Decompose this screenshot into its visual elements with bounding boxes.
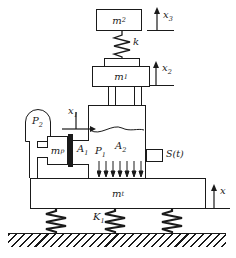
- fluid-surface-wave-icon: [90, 123, 144, 137]
- valve-port-box: [146, 149, 163, 162]
- top-mass-label: m2: [97, 10, 141, 30]
- foundation-spring-left-icon: [42, 209, 70, 234]
- base-mass-label: mt: [31, 179, 205, 208]
- foundation-spring-mid-icon: [101, 209, 129, 234]
- mid-mass-block: m1: [92, 66, 150, 87]
- piston-face-bar: [68, 134, 73, 167]
- plunger-rod-right: [134, 87, 142, 107]
- x-coord-label: x: [220, 186, 226, 196]
- x2-up-arrow-icon: [151, 61, 161, 85]
- accumulator-pressure-label: P2: [32, 116, 43, 128]
- foundation-stiffness-label: K1: [93, 212, 105, 224]
- x1-right-arrow-icon: [62, 112, 96, 135]
- piston-mass-block: mp: [47, 136, 68, 165]
- x-up-arrow-icon: [209, 184, 219, 208]
- base-mass-block: mt: [30, 178, 206, 209]
- x-reference-line: [204, 208, 230, 209]
- x3-up-arrow-icon: [152, 7, 162, 31]
- upper-spring-label: k: [133, 37, 139, 47]
- chamber-area-label: A2: [115, 141, 126, 153]
- top-mass-block: m2: [96, 9, 142, 31]
- pressure-down-arrows-icon: [97, 161, 144, 177]
- x2-reference-line: [147, 85, 174, 86]
- x2-coord-label: x2: [162, 63, 172, 75]
- piston-mass-label: mp: [48, 137, 67, 164]
- ground-hatch: [8, 233, 226, 247]
- plunger-rod-left: [108, 87, 116, 107]
- mechanical-system-diagram: m2 x3 k m1 x2 A2 S(t) P2 mp A1: [0, 0, 236, 258]
- x3-coord-label: x3: [163, 10, 173, 22]
- pipe-connector: [37, 147, 48, 158]
- valve-signal-label: S(t): [166, 149, 184, 159]
- chamber-pressure-label: P1: [95, 146, 106, 158]
- mid-mass-label: m1: [93, 67, 149, 86]
- foundation-spring-right-icon: [158, 209, 186, 234]
- upper-spring-icon: [110, 31, 134, 59]
- piston-area-label: A1: [77, 144, 88, 156]
